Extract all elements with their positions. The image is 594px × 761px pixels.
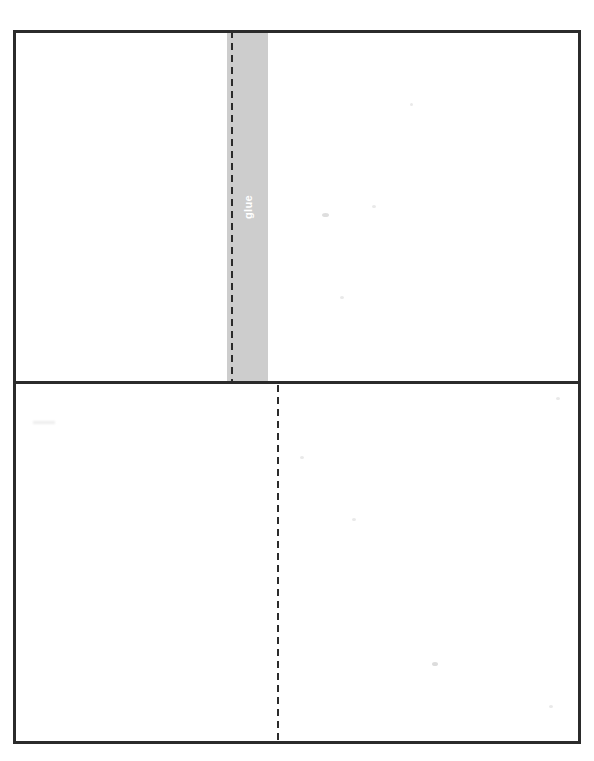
glue-strip: glue	[227, 33, 268, 381]
template-outline	[13, 30, 581, 744]
upper-fold-line	[231, 31, 233, 382]
lower-fold-line	[277, 385, 279, 744]
scanned-page: glue	[0, 0, 594, 761]
horizontal-crease-line	[13, 381, 581, 384]
glue-strip-label: glue	[242, 195, 253, 219]
